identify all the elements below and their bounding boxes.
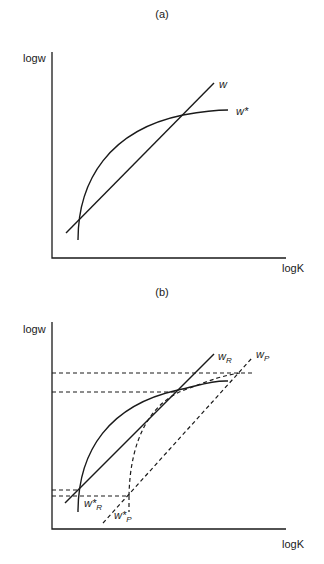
panel-a-axes (52, 52, 286, 258)
panel-a: (a) logw logK w w* (23, 8, 305, 274)
panel-a-w-star-label: w* (236, 105, 249, 117)
panel-b-w-r-line (65, 354, 214, 503)
diagram-canvas: (a) logw logK w w* (b) logw logK wR wP w… (0, 0, 324, 564)
panel-b-w-r-label: wR (218, 350, 232, 365)
panel-b-label: (b) (155, 286, 168, 298)
panel-b-w-star-r-label: w*R (84, 497, 102, 512)
panel-a-label: (a) (155, 8, 168, 20)
panel-b-y-axis-label: logw (23, 323, 46, 335)
panel-a-w-line (66, 83, 214, 233)
panel-b-x-axis-label: logK (282, 538, 305, 550)
panel-b: (b) logw logK wR wP w*R w*P (23, 286, 305, 550)
panel-a-x-axis-label: logK (282, 262, 305, 274)
panel-b-w-p-line (103, 358, 252, 523)
panel-a-y-axis-label: logw (23, 52, 46, 64)
panel-a-w-star-curve (78, 110, 228, 240)
panel-b-w-star-r-curve (78, 381, 228, 512)
panel-b-w-p-label: wP (256, 348, 270, 363)
panel-a-w-label: w (219, 78, 228, 90)
